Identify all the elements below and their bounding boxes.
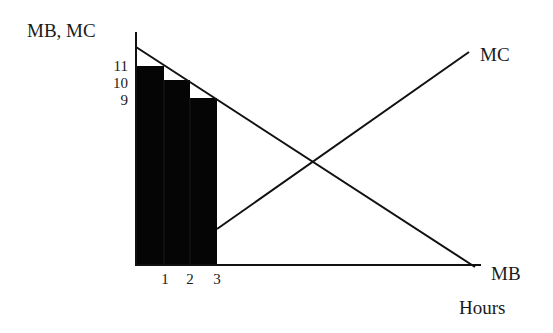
x-tick-3: 3 (210, 272, 224, 287)
x-tick-2: 2 (183, 272, 197, 287)
y-tick-10: 10 (102, 76, 128, 91)
mb-mc-chart: MB, MC 11 10 9 1 2 3 MC MB Hours (0, 0, 553, 333)
bar-hour-3 (190, 98, 217, 264)
chart-canvas (0, 0, 553, 333)
mc-line-label: MC (480, 45, 510, 64)
y-axis-label: MB, MC (27, 21, 96, 40)
mb-line-label: MB (491, 264, 521, 283)
x-tick-1: 1 (158, 272, 172, 287)
bars (137, 66, 217, 264)
bar-hour-1 (137, 66, 164, 264)
bar-hour-2 (164, 80, 190, 264)
mc-line (217, 52, 469, 229)
y-tick-9: 9 (102, 93, 128, 108)
y-tick-11: 11 (102, 59, 128, 74)
x-axis-label: Hours (459, 298, 505, 317)
